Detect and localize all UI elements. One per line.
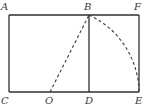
label-e: E [134,95,143,106]
label-b: B [83,1,91,12]
label-d: D [84,95,93,106]
label-c: C [1,95,9,106]
label-a: A [0,1,8,12]
geometry-diagram: A B F C O D E [0,0,144,106]
segment-ob-dashed [50,15,89,92]
label-f: F [133,1,142,12]
arc-be-dashed [89,15,139,92]
label-o: O [45,95,53,106]
